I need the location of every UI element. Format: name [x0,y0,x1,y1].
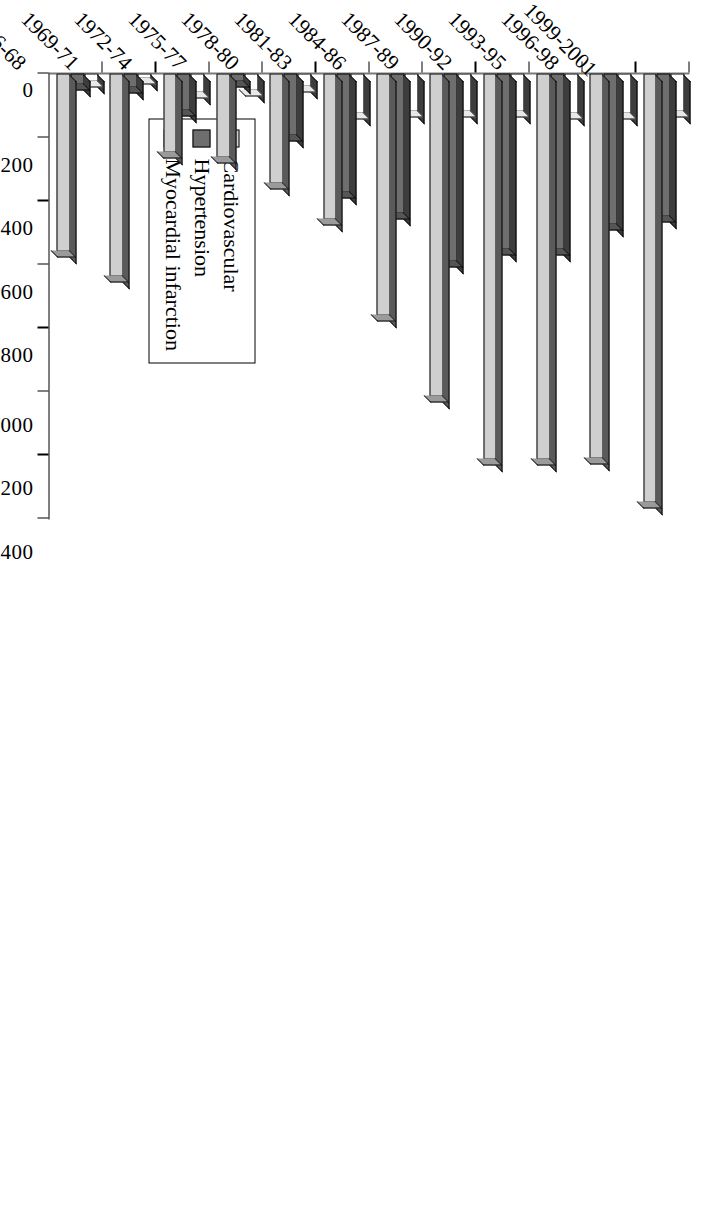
bar-cardiovascular [376,73,390,315]
bar-cardiovascular [163,73,177,152]
legend-swatch-hypertension [193,129,211,147]
bar-cardiovascular [56,73,70,251]
category-tick [261,61,262,72]
bar-cardiovascular [109,73,123,276]
value-tick-label: 1000 [0,412,33,437]
value-tick [37,390,48,391]
value-tick-label: 1400 [0,539,33,564]
rotated-chart-stage: 0200400600800100012001400 1966-681969-71… [0,0,707,1215]
value-tick [37,136,48,137]
value-tick [37,453,48,454]
value-tick [37,263,48,264]
category-tick [688,61,689,72]
chart-canvas: 0200400600800100012001400 1966-681969-71… [0,0,707,1215]
category-tick [101,61,102,72]
plot-area: 0200400600800100012001400 1966-681969-71… [49,72,689,517]
bar-cardiovascular [589,73,603,458]
value-tick-label: 800 [0,343,33,368]
bar-cardiovascular [536,73,550,459]
category-tick [474,61,475,72]
bar-cardiovascular [323,73,337,219]
value-tick [37,199,48,200]
bar-cardiovascular [269,73,283,183]
bar-cardiovascular [216,73,230,157]
value-tick [37,72,48,73]
category-tick [528,61,529,72]
value-tick-label: 400 [0,216,33,241]
value-tick-label: 200 [0,152,33,177]
category-tick [208,61,209,72]
bar-cardiovascular [483,73,497,459]
value-axis-line [48,72,49,519]
category-tick [154,61,155,72]
legend-item: Myocardial infarction [158,129,187,350]
category-tick [634,61,635,72]
legend-label-hypertension: Hypertension [191,158,213,277]
category-label: 1969-71 [15,7,83,75]
value-tick [37,517,48,518]
value-tick [37,326,48,327]
legend-item: Hypertension [187,129,216,350]
legend-label-cardiovascular: Cardiovascular [220,158,242,291]
bar-cardiovascular [643,73,657,502]
category-tick [314,61,315,72]
value-tick-label: 1200 [0,475,33,500]
value-tick-label: 600 [0,279,33,304]
bar-chart-plot: 0200400600800100012001400 1966-681969-71… [0,0,707,1215]
legend-label-myocardial-infarction: Myocardial infarction [162,158,184,350]
bar-cardiovascular [429,73,443,396]
category-tick [368,61,369,72]
category-tick [421,61,422,72]
value-tick-label: 0 [22,78,33,103]
